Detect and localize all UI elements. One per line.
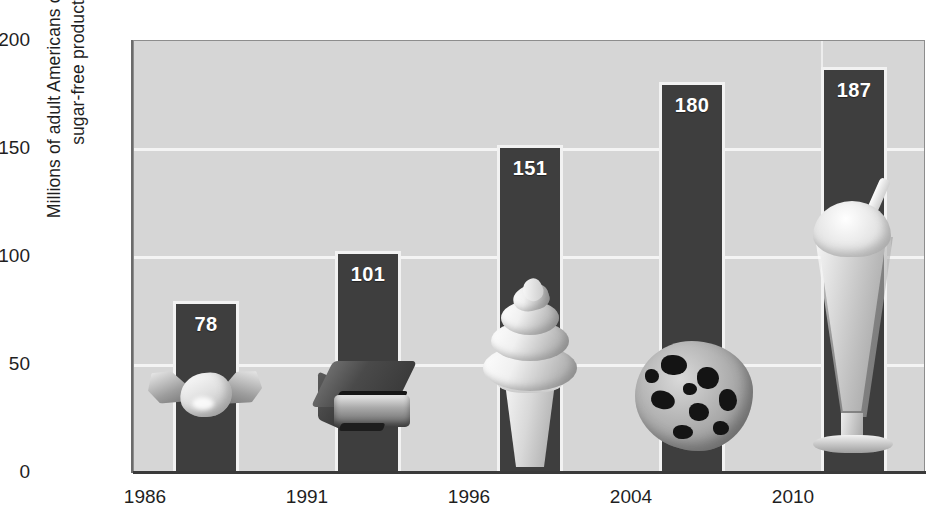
y-axis-title: Millions of adult Americans consuming su… bbox=[38, 0, 94, 284]
bar-2010: 187 bbox=[821, 67, 887, 471]
bar-value-1986: 78 bbox=[176, 313, 236, 336]
bar-2004: 180 bbox=[659, 82, 725, 471]
bar-chart: Millions of adult Americans consuming su… bbox=[0, 0, 951, 528]
y-tick-0: 0 bbox=[0, 461, 30, 483]
plot-area: 78 101 151 bbox=[133, 40, 925, 472]
bar-1986: 78 bbox=[173, 301, 239, 471]
x-tick-1986: 1986 bbox=[85, 486, 205, 508]
bar-value-2010: 187 bbox=[824, 79, 884, 102]
x-tick-1991: 1991 bbox=[247, 486, 367, 508]
y-tick-100: 100 bbox=[0, 245, 30, 267]
y-tick-50: 50 bbox=[0, 353, 30, 375]
bar-1996: 151 bbox=[497, 145, 563, 471]
x-tick-2010: 2010 bbox=[733, 486, 853, 508]
bar-value-1996: 151 bbox=[500, 157, 560, 180]
x-tick-1996: 1996 bbox=[409, 486, 529, 508]
y-tick-200: 200 bbox=[0, 29, 30, 51]
bar-value-1991: 101 bbox=[338, 263, 398, 286]
y-tick-150: 150 bbox=[0, 137, 30, 159]
x-tick-2004: 2004 bbox=[571, 486, 691, 508]
bar-value-2004: 180 bbox=[662, 94, 722, 117]
x-axis-line bbox=[133, 471, 926, 474]
bar-1991: 101 bbox=[335, 251, 401, 471]
